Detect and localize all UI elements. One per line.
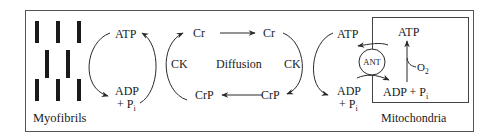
crp-left-label: CrP <box>195 88 214 102</box>
arc-atp-to-adp-right <box>313 33 333 95</box>
o2-label: O2 <box>417 61 429 76</box>
crp-right-label: CrP <box>261 88 280 102</box>
arc-adp-to-atp-left <box>140 33 156 103</box>
ck-left-label: CK <box>171 57 188 71</box>
arc-atp-to-adp-left <box>89 33 110 96</box>
creatine-shuttle-diagram: Myofibrils ATP ADP + Pi CK Cr Cr Diffusi… <box>0 0 483 139</box>
cr-left-label: Cr <box>193 26 205 40</box>
atp-right-label: ATP <box>337 27 359 41</box>
atp-mito-label: ATP <box>398 25 420 39</box>
adp-left-label: ADP <box>115 84 139 98</box>
pi-left-label: + Pi <box>117 97 136 113</box>
ant-label: ANT <box>363 57 381 67</box>
atp-left-label: ATP <box>115 27 137 41</box>
adp-mito-label: ADP + Pi <box>383 85 429 101</box>
o2-input-curve <box>407 58 416 67</box>
mitochondria-label: Mitochondria <box>381 111 447 125</box>
cr-right-label: Cr <box>263 26 275 40</box>
myofibrils-label: Myofibrils <box>33 111 87 125</box>
diffusion-label: Diffusion <box>216 57 262 71</box>
myofibril-bars <box>35 21 81 101</box>
pi-right-label: + Pi <box>339 97 358 113</box>
adp-right-label: ADP <box>337 84 361 98</box>
ck-right-label: CK <box>284 57 301 71</box>
